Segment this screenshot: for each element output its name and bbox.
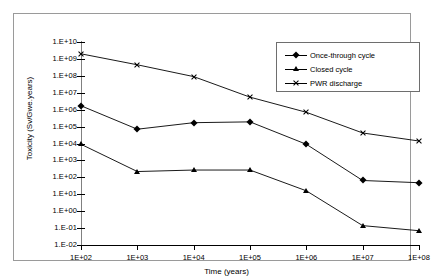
y-tick-label: 1.E+09 xyxy=(52,55,77,63)
x-tick xyxy=(194,245,195,250)
x-tick-label: 1E+03 xyxy=(126,253,148,262)
data-point-triangle-icon xyxy=(134,169,140,174)
y-tick-label: 1.E+00 xyxy=(52,207,77,215)
y-tick-label: 1.E+01 xyxy=(52,190,77,198)
y-tick-label: 1.E+10 xyxy=(52,38,77,46)
x-tick-label: 1E+07 xyxy=(352,253,374,262)
y-tick-label: 1.E+08 xyxy=(52,72,77,80)
x-tick-label: 1E+06 xyxy=(295,253,317,262)
y-tick-label: 1.E+03 xyxy=(52,156,77,164)
data-point-triangle-icon xyxy=(191,167,197,172)
legend-item: PWR discharge xyxy=(285,76,419,90)
y-axis-tick-labels: 1.E+101.E+091.E+081.E+071.E+061.E+051.E+… xyxy=(36,14,77,280)
y-tick-label: 1.E+02 xyxy=(52,173,77,181)
y-axis-title: Toxicity (Sv/Gwe.years) xyxy=(25,64,34,174)
legend-marker-triangle-icon xyxy=(285,64,307,74)
data-point-cross-icon xyxy=(247,94,254,101)
y-tick-label: 1.E+05 xyxy=(52,123,77,131)
legend-item: Closed cycle xyxy=(285,62,419,76)
x-tick xyxy=(363,245,364,250)
data-point-triangle-icon xyxy=(360,223,366,228)
legend-item-label: Closed cycle xyxy=(310,65,353,74)
x-axis-title: Time (years) xyxy=(14,267,435,276)
x-tick xyxy=(81,245,82,250)
x-tick xyxy=(306,245,307,250)
y-tick-label: 1.E+04 xyxy=(52,140,77,148)
y-tick-label: 1.E+06 xyxy=(52,106,77,114)
x-tick-label: 1E+05 xyxy=(239,253,261,262)
x-tick-label: 1E+08 xyxy=(408,253,430,262)
data-point-cross-icon xyxy=(359,129,366,136)
data-point-triangle-icon xyxy=(303,188,309,193)
legend-item-label: Once-through cycle xyxy=(310,51,375,60)
data-point-cross-icon xyxy=(134,61,141,68)
data-point-cross-icon xyxy=(416,138,423,145)
data-point-triangle-icon xyxy=(247,167,253,172)
y-tick-label: 1.E+07 xyxy=(52,89,77,97)
y-tick-label: 1.E-01 xyxy=(54,224,77,232)
figure-border: 1.E+101.E+091.E+081.E+071.E+061.E+051.E+… xyxy=(13,13,411,261)
legend-item: Once-through cycle xyxy=(285,48,419,62)
x-tick-label: 1E+02 xyxy=(70,253,92,262)
data-point-triangle-icon xyxy=(78,141,84,146)
x-tick xyxy=(419,245,420,250)
x-tick xyxy=(137,245,138,250)
x-tick xyxy=(250,245,251,250)
series-line xyxy=(81,144,419,230)
data-point-cross-icon xyxy=(303,109,310,116)
legend-item-label: PWR discharge xyxy=(310,79,362,88)
x-tick-label: 1E+04 xyxy=(183,253,205,262)
legend: Once-through cycleClosed cyclePWR discha… xyxy=(276,42,420,92)
data-point-cross-icon xyxy=(78,50,85,57)
legend-marker-cross-icon xyxy=(285,78,307,88)
y-tick-label: 1.E-02 xyxy=(54,241,77,249)
data-point-triangle-icon xyxy=(416,228,422,233)
data-point-cross-icon xyxy=(190,73,197,80)
legend-marker-diamond-icon xyxy=(285,50,307,60)
